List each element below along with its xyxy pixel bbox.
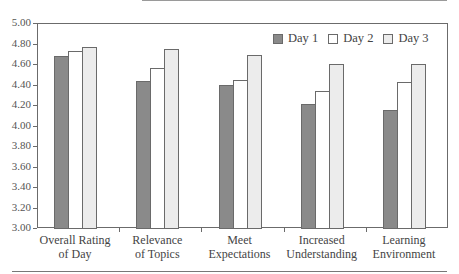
x-tick-mark	[284, 228, 285, 232]
y-tick-label: 3.00	[0, 222, 37, 233]
x-tick-mark	[201, 228, 202, 232]
y-tick-label: 3.40	[0, 181, 37, 192]
x-category-label-line: Learning	[363, 233, 445, 247]
legend-item-day-1: Day 1	[273, 31, 318, 46]
x-tick-mark	[119, 228, 120, 232]
x-category-label-line: Expectations	[199, 247, 281, 261]
x-category-label-line: of Topics	[116, 247, 198, 261]
bar-day-3	[247, 55, 262, 229]
legend-label: Day 2	[343, 31, 373, 46]
y-tick-label: 3.60	[0, 161, 37, 172]
legend-label: Day 3	[398, 31, 428, 46]
x-category-label-line: Understanding	[281, 247, 363, 261]
x-category-label: IncreasedUnderstanding	[281, 233, 363, 261]
bar-day-2	[397, 82, 412, 229]
bar-day-3	[411, 64, 426, 229]
x-category-label-line: Overall Rating	[34, 233, 116, 247]
legend-swatch-icon	[328, 34, 338, 44]
y-tick-label: 4.20	[0, 99, 37, 110]
legend-swatch-icon	[383, 34, 393, 44]
y-tick-label: 5.00	[0, 17, 37, 28]
bar-day-1	[219, 85, 234, 230]
bar-day-2	[150, 68, 165, 229]
x-category-label: Overall Ratingof Day	[34, 233, 116, 261]
bar-day-2	[68, 51, 83, 229]
y-tick-label: 4.80	[0, 38, 37, 49]
x-category-label: MeetExpectations	[199, 233, 281, 261]
bar-day-1	[383, 110, 398, 229]
y-tick-mark	[33, 228, 37, 229]
x-category-label-line: Increased	[281, 233, 363, 247]
bar-day-2	[233, 80, 248, 229]
top-rule	[142, 0, 447, 1]
legend-swatch-icon	[273, 34, 283, 44]
legend: Day 1Day 2Day 3	[273, 31, 429, 46]
bar-day-2	[315, 91, 330, 229]
x-category-label-line: Environment	[363, 247, 445, 261]
legend-label: Day 1	[288, 31, 318, 46]
legend-item-day-2: Day 2	[328, 31, 373, 46]
y-tick-label: 3.20	[0, 202, 37, 213]
bar-day-1	[54, 56, 69, 229]
y-tick-label: 4.40	[0, 79, 37, 90]
x-category-label: Relevanceof Topics	[116, 233, 198, 261]
bar-day-3	[329, 64, 344, 229]
bar-day-3	[164, 49, 179, 229]
y-tick-label: 3.80	[0, 140, 37, 151]
legend-item-day-3: Day 3	[383, 31, 428, 46]
y-tick-label: 4.60	[0, 58, 37, 69]
y-tick-label: 4.00	[0, 120, 37, 131]
x-category-label-line: Meet	[199, 233, 281, 247]
x-tick-mark	[366, 228, 367, 232]
x-category-label-line: Relevance	[116, 233, 198, 247]
x-category-label-line: of Day	[34, 247, 116, 261]
bar-day-1	[301, 104, 316, 229]
bottom-rule	[12, 271, 447, 272]
bar-day-3	[82, 47, 97, 229]
bar-day-1	[136, 81, 151, 229]
x-category-label: LearningEnvironment	[363, 233, 445, 261]
